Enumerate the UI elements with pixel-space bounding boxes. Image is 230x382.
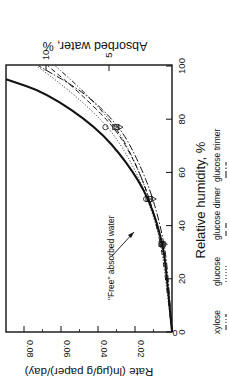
chart: 02040608010000.020.040.060.08510 Relativ…	[0, 0, 230, 382]
x-tick-label: 20	[176, 274, 187, 285]
x-tick-label: 40	[176, 220, 187, 231]
circle-marker-icon	[103, 125, 108, 130]
x-tick-label: 80	[176, 114, 187, 125]
legend-item: glucose trimer	[212, 128, 222, 182]
y-tick-label: 0.02	[136, 340, 146, 358]
annotation-text: "Free" absorbed water	[106, 215, 116, 300]
y-tick-label: 0.06	[62, 340, 72, 358]
x-tick-label: 60	[176, 167, 187, 178]
y-tick-label: 0.04	[99, 340, 109, 358]
x-tick-label: 0	[176, 329, 187, 334]
legend: xyloseglucoseglucose dimerglucose trimer	[212, 128, 226, 334]
y-tick-label: 0.08	[25, 340, 35, 358]
x-tick-label: 100	[176, 58, 187, 74]
y-axis-label: Rate (ln(μg/g paper)/day)	[24, 366, 153, 378]
y-tick-label: 0	[172, 328, 177, 338]
y2-axis-label: Absorbed water, %	[43, 39, 148, 53]
series-line	[6, 79, 172, 332]
legend-item: xylose	[212, 310, 222, 334]
legend-item: glucose	[212, 256, 222, 286]
x-axis-label: Relative humidity, %	[193, 141, 208, 258]
legend-item: glucose dimer	[212, 187, 222, 240]
